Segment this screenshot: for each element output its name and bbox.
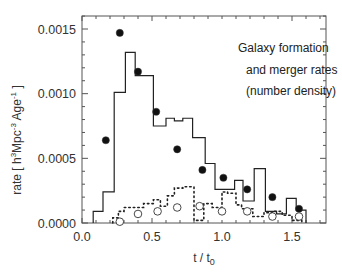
x-tick-label: 1.5 bbox=[283, 230, 300, 244]
merger-data-point bbox=[173, 204, 181, 212]
y-axis-title: rate [ h3Mpc-3 Age-1 ] bbox=[9, 85, 24, 194]
merger-data-point bbox=[154, 208, 162, 216]
formation-data-point bbox=[102, 137, 109, 144]
merger-data-point bbox=[295, 213, 303, 221]
x-tick-label: 1.0 bbox=[213, 230, 230, 244]
formation-data-point bbox=[295, 205, 302, 212]
annotation: Galaxy formation and merger rates (numbe… bbox=[238, 41, 337, 98]
y-tick-label: 0.0010 bbox=[38, 87, 76, 101]
merger-data-point bbox=[243, 208, 251, 216]
x-axis-title: t / t0 bbox=[193, 251, 215, 267]
formation-data-point bbox=[220, 174, 227, 181]
formation-data-point bbox=[244, 186, 251, 193]
plot-area bbox=[93, 29, 306, 225]
formation-data-point bbox=[174, 146, 181, 153]
formation-data-point bbox=[153, 108, 160, 115]
merger-data-point bbox=[196, 202, 204, 210]
x-tick-label: 0.5 bbox=[143, 230, 160, 244]
formation-data-point bbox=[199, 166, 206, 173]
formation-data-point bbox=[116, 29, 123, 36]
formation-data-point bbox=[134, 68, 141, 75]
y-tick-label: 0.0000 bbox=[38, 217, 76, 231]
annotation-line-3: (number density) bbox=[246, 84, 336, 98]
chart: 0.00.51.01.5 0.00000.00050.00100.0015 Ga… bbox=[0, 0, 342, 273]
y-tick-label: 0.0005 bbox=[38, 152, 76, 166]
annotation-line-1: Galaxy formation bbox=[238, 41, 329, 55]
formation-data-point bbox=[269, 194, 276, 201]
x-tick-label: 0.0 bbox=[73, 230, 90, 244]
annotation-line-2: and merger rates bbox=[246, 63, 337, 77]
merger-data-point bbox=[269, 213, 277, 221]
merger-data-point bbox=[134, 210, 142, 218]
merger-data-point bbox=[218, 208, 226, 216]
merger-data-point bbox=[116, 218, 124, 226]
y-tick-label: 0.0015 bbox=[38, 23, 76, 37]
